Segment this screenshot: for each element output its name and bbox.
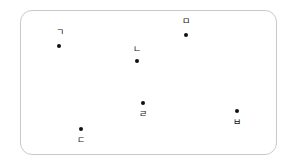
point-label-giyeok: ㄱ xyxy=(56,28,64,37)
figure-canvas: ㄱㄴㅁㄹㅂㄷ xyxy=(0,0,294,163)
point-marker-ㅁ xyxy=(184,33,188,37)
point-marker-ㄱ xyxy=(57,44,61,48)
point-label-nieun: ㄴ xyxy=(133,45,141,54)
point-marker-ㄹ xyxy=(141,101,145,105)
point-label-digeut: ㄷ xyxy=(77,136,85,145)
point-marker-ㄷ xyxy=(79,127,83,131)
point-label-bieup: ㅂ xyxy=(233,118,241,127)
point-marker-ㄴ xyxy=(135,59,139,63)
point-marker-ㅂ xyxy=(235,109,239,113)
point-label-mieum: ㅁ xyxy=(182,17,190,26)
point-label-rieul: ㄹ xyxy=(139,110,147,119)
